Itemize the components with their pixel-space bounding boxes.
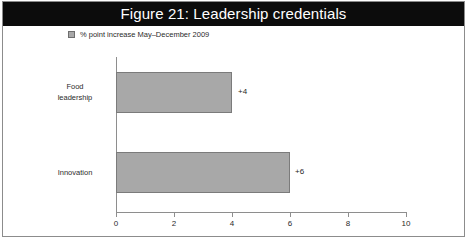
bar-food-leadership[interactable] [116, 72, 232, 113]
x-tick-4 [348, 213, 349, 217]
x-axis-line [116, 212, 407, 213]
category-label-food-leadership: Food leadership [40, 81, 110, 103]
x-tick-label-0: 0 [114, 220, 118, 228]
x-tick-label-5: 10 [402, 220, 411, 228]
x-tick-3 [290, 213, 291, 217]
bar-innovation[interactable] [116, 152, 290, 193]
plot-area: 0 2 4 6 8 10 Food leadership Innovation … [0, 0, 467, 240]
x-tick-5 [406, 213, 407, 217]
x-tick-2 [232, 213, 233, 217]
x-tick-label-4: 8 [346, 220, 350, 228]
bar-value-innovation: +6 [295, 168, 304, 176]
x-tick-0 [116, 213, 117, 217]
x-tick-1 [174, 213, 175, 217]
x-tick-label-3: 6 [288, 220, 292, 228]
figure-container: Figure 21: Leadership credentials % poin… [0, 0, 467, 240]
category-label-innovation: Innovation [40, 167, 110, 178]
x-tick-label-2: 4 [230, 220, 234, 228]
x-tick-label-1: 2 [172, 220, 176, 228]
bar-value-food-leadership: +4 [238, 88, 247, 96]
